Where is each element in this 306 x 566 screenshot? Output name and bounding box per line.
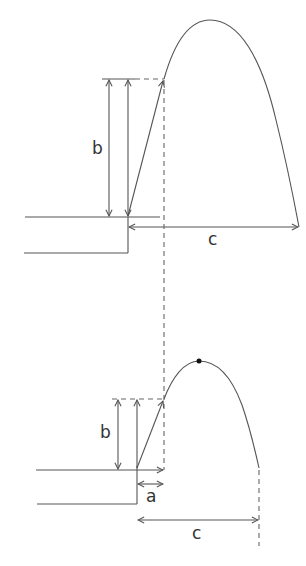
bottom-b-label: b: [100, 422, 111, 442]
top-c-label: c: [208, 229, 217, 249]
top-trajectory-curve: [164, 20, 299, 227]
bottom-c-label: c: [192, 523, 201, 543]
bottom-trajectory-curve: [164, 361, 259, 468]
projectile-diagram: b c b a c: [0, 0, 306, 566]
bottom-diagram: b a c: [36, 359, 259, 547]
bottom-apex-dot: [197, 359, 202, 364]
top-b-label: b: [92, 138, 103, 158]
bottom-a-label: a: [146, 486, 156, 506]
top-diagram: b c: [24, 20, 299, 253]
bottom-launch-segment: [137, 401, 163, 468]
top-launch-segment: [128, 81, 163, 216]
